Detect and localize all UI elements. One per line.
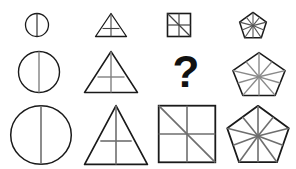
pentagon-divided-icon [231,51,287,97]
square-divided-icon [157,104,217,164]
circle-divided-icon [17,50,61,94]
cell-r3c3-square [157,104,217,164]
cell-r2c2-triangle [83,50,139,94]
cell-r1c1-circle [24,12,50,38]
pentagon-divided-icon [238,11,268,39]
cell-r1c2-triangle [94,12,128,38]
pentagon-divided-icon [225,104,291,164]
cell-r1c3-square [166,12,192,38]
cell-r2c1-circle [17,50,61,94]
circle-divided-icon [9,104,73,166]
puzzle-matrix: ? [0,0,296,169]
cell-r3c2-triangle [83,104,149,166]
circle-divided-icon [24,12,50,38]
cell-r2c4-pentagon [231,51,287,97]
triangle-divided-icon [94,12,128,38]
missing-cell-question-mark: ? [168,48,204,96]
cell-r3c4-pentagon [225,104,291,164]
square-divided-icon [166,12,192,38]
triangle-divided-icon [83,104,149,166]
cell-r3c1-circle [9,104,73,166]
cell-r1c4-pentagon [238,11,268,39]
triangle-divided-icon [83,50,139,94]
